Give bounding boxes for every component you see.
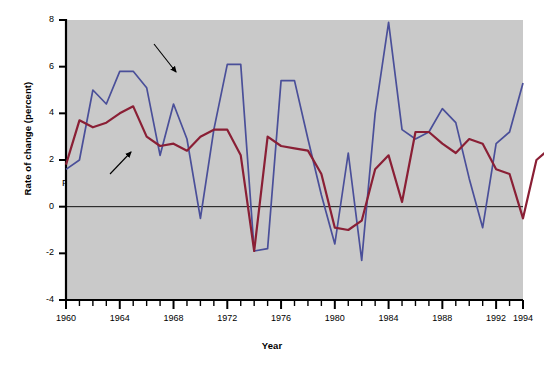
plot-area — [0, 0, 544, 373]
plot-background — [66, 20, 523, 300]
chart-figure: Rate of change (percent) Year -4-202468 … — [0, 0, 544, 373]
x-tick-marks — [66, 300, 523, 309]
